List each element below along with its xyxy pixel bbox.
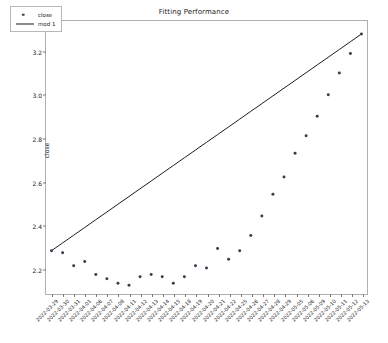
x-tick-mark	[230, 294, 231, 297]
legend-label: close	[35, 12, 52, 18]
plot-canvas	[46, 21, 367, 294]
y-tick-label: 3.0	[32, 92, 42, 99]
data-point	[50, 249, 53, 252]
x-tick-mark	[74, 294, 75, 297]
x-tick-mark	[163, 294, 164, 297]
series-scatter-close	[50, 33, 363, 287]
data-point	[139, 275, 142, 278]
data-point	[205, 267, 208, 270]
y-tick-mark	[43, 95, 46, 96]
data-point	[238, 249, 241, 252]
x-tick-mark	[252, 294, 253, 297]
y-tick-label: 2.8	[32, 135, 42, 142]
x-tick-mark	[263, 294, 264, 297]
y-tick-mark	[43, 138, 46, 139]
data-point	[271, 193, 274, 196]
y-tick-label: 3.2	[32, 48, 42, 55]
y-tick-label: 2.4	[32, 223, 42, 230]
x-tick-mark	[363, 294, 364, 297]
data-point	[216, 247, 219, 250]
series-line-mod1	[52, 34, 362, 251]
data-point	[72, 264, 75, 267]
chart-legend: close mod 1	[10, 6, 62, 32]
x-tick-mark	[196, 294, 197, 297]
data-point	[150, 273, 153, 276]
y-tick-label: 2.2	[32, 266, 42, 273]
scatter-marker-icon	[15, 10, 35, 19]
x-tick-mark	[297, 294, 298, 297]
x-tick-mark	[96, 294, 97, 297]
x-tick-mark	[330, 294, 331, 297]
data-point	[305, 134, 308, 137]
y-axis-label: close	[43, 121, 50, 181]
x-tick-mark	[319, 294, 320, 297]
data-point	[194, 264, 197, 267]
data-point	[227, 258, 230, 261]
x-tick-mark	[63, 294, 64, 297]
x-tick-mark	[141, 294, 142, 297]
x-tick-mark	[152, 294, 153, 297]
data-point	[249, 234, 252, 237]
x-tick-mark	[118, 294, 119, 297]
data-point	[105, 277, 108, 280]
data-point	[61, 251, 64, 254]
x-tick-mark	[208, 294, 209, 297]
data-point	[128, 284, 131, 287]
data-point	[161, 275, 164, 278]
data-point	[327, 93, 330, 96]
data-point	[183, 275, 186, 278]
data-point	[360, 33, 363, 36]
y-tick-mark	[43, 226, 46, 227]
y-tick-mark	[43, 51, 46, 52]
x-tick-mark	[308, 294, 309, 297]
data-point	[338, 72, 341, 75]
data-point	[94, 273, 97, 276]
x-tick-mark	[52, 294, 53, 297]
x-tick-mark	[352, 294, 353, 297]
x-tick-mark	[241, 294, 242, 297]
legend-item-close: close	[15, 10, 55, 19]
chart-figure: Fitting Performance close 2.22.42.62.83.…	[0, 0, 388, 343]
data-point	[282, 176, 285, 179]
data-point	[116, 282, 119, 285]
x-tick-mark	[130, 294, 131, 297]
data-point	[349, 52, 352, 55]
data-point	[260, 215, 263, 218]
legend-item-mod1: mod 1	[15, 19, 55, 28]
data-point	[172, 282, 175, 285]
line-sample-icon	[15, 19, 35, 28]
x-tick-mark	[274, 294, 275, 297]
x-tick-mark	[185, 294, 186, 297]
legend-label: mod 1	[35, 21, 55, 27]
x-tick-mark	[219, 294, 220, 297]
x-tick-mark	[107, 294, 108, 297]
x-tick-mark	[285, 294, 286, 297]
data-point	[83, 260, 86, 263]
y-tick-label: 2.6	[32, 179, 42, 186]
data-point	[316, 115, 319, 118]
plot-area: close 2.22.42.62.83.03.2 2022-03-292022-…	[45, 20, 368, 295]
x-tick-mark	[85, 294, 86, 297]
data-point	[294, 152, 297, 155]
x-tick-mark	[341, 294, 342, 297]
y-tick-mark	[43, 182, 46, 183]
x-tick-mark	[174, 294, 175, 297]
y-tick-mark	[43, 269, 46, 270]
